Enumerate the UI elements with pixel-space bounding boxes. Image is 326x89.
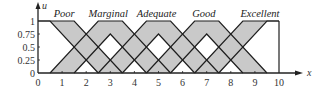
x-axis-label: x: [306, 67, 312, 78]
set-label-marginal: Marginal: [88, 8, 128, 19]
y-tick-label: 0.5: [23, 42, 36, 53]
x-tick-label: 1: [60, 77, 65, 88]
x-tick-label: 3: [108, 77, 113, 88]
set-label-adequate: Adequate: [136, 8, 177, 19]
x-tick-label: 4: [132, 77, 137, 88]
set-label-poor: Poor: [53, 8, 76, 19]
set-label-excellent: Excellent: [239, 8, 280, 19]
y-tick-label: 0.75: [18, 29, 36, 40]
y-axis-label: u: [42, 0, 47, 11]
x-tick-label: 2: [84, 77, 89, 88]
x-tick-label: 9: [252, 77, 257, 88]
fuzzy-sets-chart: ux01234567891000.250.50.751 PoorMarginal…: [0, 0, 326, 89]
x-tick-label: 0: [36, 77, 41, 88]
set-label-good: Good: [192, 8, 216, 19]
x-axis-arrow-icon: [295, 71, 303, 76]
x-tick-label: 5: [156, 77, 161, 88]
y-tick-label: 1: [30, 16, 35, 27]
x-tick-label: 8: [228, 77, 233, 88]
x-tick-label: 10: [274, 77, 284, 88]
y-tick-label: 0: [30, 68, 35, 79]
y-tick-label: 0.25: [18, 55, 36, 66]
x-tick-label: 6: [180, 77, 185, 88]
y-axis-arrow-icon: [36, 2, 41, 9]
set-labels: PoorMarginalAdequateGoodExcellent: [53, 8, 281, 19]
x-tick-label: 7: [204, 77, 209, 88]
